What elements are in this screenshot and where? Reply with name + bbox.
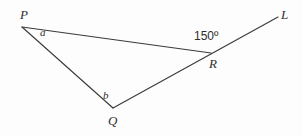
vertex-label-q: Q	[108, 114, 117, 127]
angle-measure-label-150: 150º	[194, 30, 218, 42]
segment-p-to-r	[22, 27, 211, 53]
angle-label-a: a	[40, 27, 46, 38]
geometry-figure: P Q R L a b 150º	[0, 0, 303, 137]
angle-label-b: b	[103, 90, 109, 101]
segment-p-to-q	[22, 27, 113, 108]
vertex-label-r: R	[209, 57, 217, 70]
vertex-label-p: P	[20, 8, 28, 21]
vertex-label-l: L	[281, 8, 288, 21]
figure-canvas	[0, 0, 303, 137]
